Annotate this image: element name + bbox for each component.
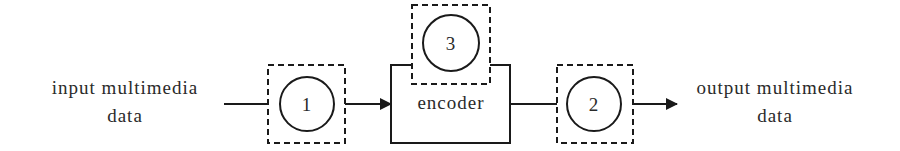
node-3: 3: [412, 5, 490, 84]
node-2: 2: [557, 65, 633, 143]
encoder-block: encoder: [391, 65, 510, 143]
node-1: 1: [268, 65, 345, 143]
node-2-label: 2: [589, 94, 600, 115]
encoder-label: encoder: [417, 92, 484, 113]
diagram-canvas: input multimedia data 1 encoder 3 2 outp…: [0, 0, 900, 151]
output-label-line2: data: [757, 105, 793, 126]
input-label: input multimedia data: [52, 77, 198, 126]
node-1-label: 1: [302, 94, 313, 115]
input-label-line2: data: [107, 105, 143, 126]
output-label-line1: output multimedia: [697, 77, 854, 98]
node-3-label: 3: [446, 33, 457, 54]
output-label: output multimedia data: [697, 77, 854, 126]
input-label-line1: input multimedia: [52, 77, 198, 98]
